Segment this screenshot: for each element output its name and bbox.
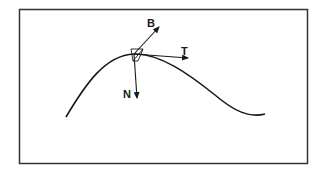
binormal-label: B xyxy=(147,17,155,29)
frenet-frame-diagram: B T N xyxy=(0,0,325,172)
space-curve xyxy=(66,54,265,117)
normal-label: N xyxy=(123,88,131,100)
binormal-vector-arrow xyxy=(134,27,159,54)
tangent-vector-arrow xyxy=(134,54,188,58)
tangent-label: T xyxy=(181,45,188,57)
diagram-frame xyxy=(20,10,308,164)
